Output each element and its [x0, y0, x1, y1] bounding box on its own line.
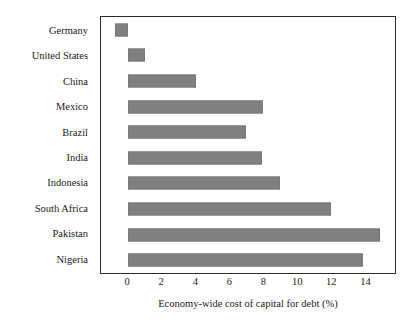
x-tick-label: 12 [326, 276, 337, 287]
bar-row [101, 43, 395, 69]
y-axis-label-group: GermanyUnited StatesChinaMexicoBrazilInd… [0, 18, 96, 272]
bar [128, 177, 280, 190]
x-axis-tick-group: 02468101214 [100, 276, 396, 292]
bar [128, 254, 363, 267]
y-tick-label: India [0, 145, 96, 170]
x-axis-title: Economy-wide cost of capital for debt (%… [100, 298, 396, 309]
bar-row [101, 222, 395, 248]
bar-row [101, 145, 395, 171]
x-tick-label: 10 [292, 276, 303, 287]
x-tick-label: 2 [159, 276, 164, 287]
x-tick-label: 6 [227, 276, 232, 287]
y-tick-label: Brazil [0, 120, 96, 145]
bar [128, 49, 145, 62]
x-tick-label: 8 [261, 276, 266, 287]
bar [128, 228, 380, 241]
bar-row [101, 247, 395, 273]
bar-row [101, 17, 395, 43]
y-tick-label: Mexico [0, 94, 96, 119]
bar [128, 100, 263, 113]
y-tick-label: United States [0, 43, 96, 68]
y-tick-label: China [0, 69, 96, 94]
bar-row [101, 68, 395, 94]
y-tick-label: Germany [0, 18, 96, 43]
bar-chart: GermanyUnited StatesChinaMexicoBrazilInd… [0, 0, 418, 326]
y-tick-label: Nigeria [0, 247, 96, 272]
bars-layer [101, 17, 395, 273]
bar [128, 74, 196, 87]
bar-row [101, 94, 395, 120]
y-tick-label: South Africa [0, 196, 96, 221]
y-tick-label: Pakistan [0, 221, 96, 246]
bar [128, 202, 331, 215]
x-tick-label: 4 [193, 276, 198, 287]
bar-row [101, 171, 395, 197]
bar-row [101, 119, 395, 145]
plot-area [100, 16, 396, 274]
bar-row [101, 196, 395, 222]
x-tick-label: 14 [360, 276, 371, 287]
bar [128, 151, 261, 164]
bar [115, 23, 129, 36]
x-tick-label: 0 [125, 276, 130, 287]
bar [128, 126, 246, 139]
y-tick-label: Indonesia [0, 170, 96, 195]
